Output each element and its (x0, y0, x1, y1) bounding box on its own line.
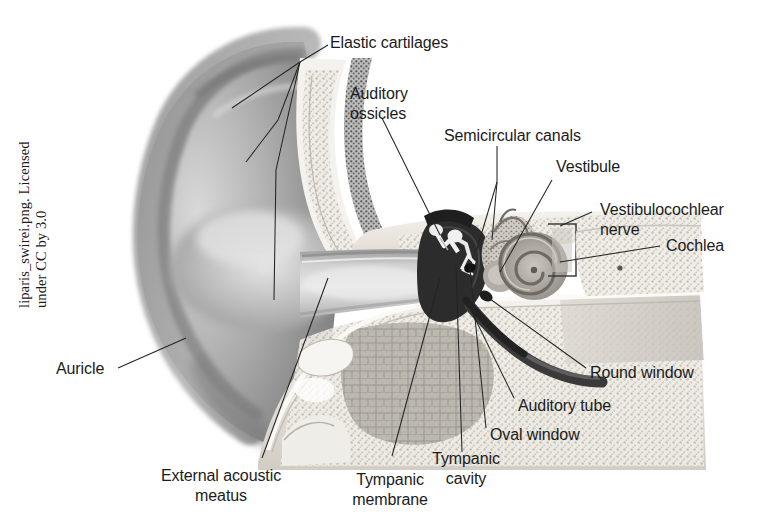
label-round-window: Round window (590, 363, 694, 383)
credit-text: liparis_swirei.png. Licensed under CC by… (16, 118, 50, 308)
label-semicircular-canals: Semicircular canals (444, 126, 581, 146)
label-tympanic-membrane: Tympanic membrane (336, 470, 444, 509)
label-vestibulocochlear-nerve: Vestibulocochlear nerve (600, 200, 724, 239)
label-oval-window: Oval window (490, 425, 580, 445)
label-elastic-cartilages: Elastic cartilages (330, 33, 448, 53)
ear-illustration (0, 0, 762, 526)
label-auditory-ossicles: Auditory ossicles (350, 84, 408, 123)
label-vestibule: Vestibule (556, 157, 620, 177)
label-auricle: Auricle (56, 359, 104, 379)
ear-anatomy-figure: liparis_swirei.png. Licensed under CC by… (0, 0, 762, 526)
label-auditory-tube: Auditory tube (518, 396, 611, 416)
label-external-acoustic-meatus: External acoustic meatus (146, 466, 296, 505)
label-cochlea: Cochlea (666, 236, 724, 256)
